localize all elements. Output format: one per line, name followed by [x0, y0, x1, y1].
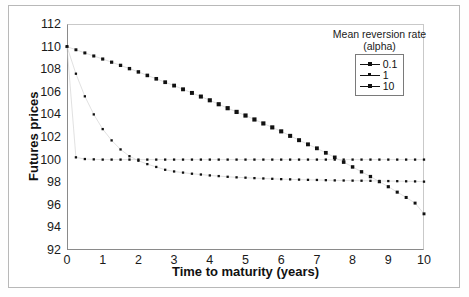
data-point: [405, 196, 408, 199]
y-tick-label: 110: [31, 41, 61, 53]
data-point: [271, 158, 273, 160]
legend-item-label: 0.1: [383, 59, 398, 69]
data-point: [119, 64, 122, 67]
x-tick-label: 8: [341, 254, 365, 266]
data-point: [199, 95, 203, 99]
data-point: [298, 158, 300, 160]
data-point: [155, 158, 157, 160]
data-point: [218, 158, 220, 160]
x-tick-label: 0: [55, 254, 79, 266]
data-point: [307, 158, 309, 160]
data-point: [334, 158, 336, 160]
legend-item-label: 1: [383, 70, 389, 80]
data-point: [146, 74, 150, 78]
data-point: [253, 177, 255, 179]
legend-item-label: 10: [383, 81, 395, 91]
data-point: [360, 158, 362, 160]
data-point: [200, 158, 202, 160]
data-point: [252, 117, 256, 121]
data-point: [270, 125, 274, 129]
data-point: [387, 180, 389, 182]
data-point: [66, 45, 68, 47]
data-point: [227, 158, 229, 160]
data-point: [234, 110, 238, 114]
data-point: [423, 158, 425, 160]
legend-box: 0.1110: [355, 54, 405, 96]
data-point: [84, 95, 86, 97]
data-point: [423, 212, 426, 215]
data-point: [271, 178, 273, 180]
data-point: [163, 80, 167, 84]
data-point: [182, 171, 184, 173]
y-tick-label: 94: [31, 221, 61, 233]
data-point: [343, 158, 345, 160]
data-point: [307, 179, 309, 181]
data-point: [101, 57, 104, 60]
data-point: [396, 180, 398, 182]
data-point: [173, 158, 175, 160]
data-point: [325, 158, 327, 160]
data-point: [405, 158, 407, 160]
y-tick-label: 98: [31, 176, 61, 188]
legend-marker-icon: [360, 82, 380, 91]
data-point: [128, 155, 130, 157]
x-tick-label: 9: [376, 254, 400, 266]
data-point: [128, 158, 130, 160]
data-point: [119, 148, 121, 150]
legend-subtitle: (alpha): [322, 40, 437, 52]
y-tick-label: 108: [31, 63, 61, 75]
data-point: [351, 165, 354, 168]
data-point: [74, 48, 77, 51]
data-point: [279, 129, 283, 133]
data-point: [423, 180, 425, 182]
data-point: [217, 102, 221, 106]
x-tick-label: 2: [126, 254, 150, 266]
data-point: [289, 158, 291, 160]
data-point: [137, 158, 139, 160]
data-point: [369, 158, 371, 160]
data-point: [369, 180, 371, 182]
data-point: [298, 178, 300, 180]
data-point: [315, 146, 319, 150]
data-point: [93, 113, 95, 115]
data-point: [280, 158, 282, 160]
data-point: [244, 158, 246, 160]
data-point: [102, 158, 104, 160]
data-point: [297, 138, 301, 142]
data-point: [253, 158, 255, 160]
data-point: [173, 170, 175, 172]
data-point: [262, 177, 264, 179]
data-point: [325, 179, 327, 181]
data-point: [92, 54, 95, 57]
data-point: [244, 177, 246, 179]
y-tick-label: 106: [31, 86, 61, 98]
data-point: [360, 170, 363, 173]
data-point: [155, 166, 157, 168]
data-point: [396, 191, 399, 194]
data-point: [119, 158, 121, 160]
x-tick-label: 4: [198, 254, 222, 266]
data-point: [414, 202, 417, 205]
data-point: [261, 121, 265, 125]
data-point: [191, 158, 193, 160]
legend-item-0.1[interactable]: 0.1: [360, 59, 398, 69]
x-tick-label: 3: [162, 254, 186, 266]
data-point: [209, 158, 211, 160]
legend-marker-icon: [360, 71, 380, 80]
data-point: [146, 163, 148, 165]
y-tick-label: 112: [31, 18, 61, 30]
data-point: [288, 134, 292, 138]
legend-item-1[interactable]: 1: [360, 70, 398, 80]
data-point: [360, 180, 362, 182]
y-tick-label: 102: [31, 131, 61, 143]
data-point: [128, 67, 131, 70]
data-point: [343, 179, 345, 181]
data-point: [164, 169, 166, 171]
data-point: [83, 51, 86, 54]
data-point: [387, 185, 390, 188]
data-point: [414, 180, 416, 182]
legend-item-10[interactable]: 10: [360, 81, 398, 91]
data-point: [146, 158, 148, 160]
x-tick-label: 10: [412, 254, 436, 266]
data-point: [227, 176, 229, 178]
